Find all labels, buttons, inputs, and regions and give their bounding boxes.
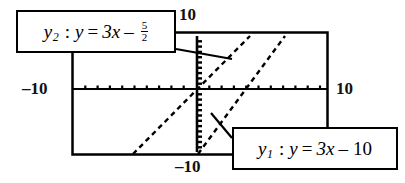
callout-box-y1: y1 : y = 3x – 10 [232,127,398,170]
figure-container: 10 –10 10 –10 y2 : y = 3x – 5 2 y1 : y =… [0,0,405,183]
equation-y1-lhs: y [289,139,297,158]
equation-y2-subscript: 2 [53,31,59,43]
axis-label-right: 10 [336,80,353,97]
equation-y1-colon: : [279,139,284,158]
equation-y2-equals: = [88,22,99,41]
y-axis-ticks [197,41,202,147]
equation-y2-colon: : [65,22,70,41]
axis-label-bottom: –10 [175,158,201,175]
fraction-denominator: 2 [141,31,149,43]
equation-y2-operator: – [124,22,134,41]
equation-y1-slope-term: 3x [316,139,334,158]
axis-label-top: 10 [179,6,196,23]
equation-y1-equals: = [302,139,313,158]
equation-y2: y2 : y = 3x – 5 2 [44,20,148,43]
equation-y2-lhs: y [75,22,83,41]
equation-y1: y1 : y = 3x – 10 [258,139,372,158]
callout-box-y2: y2 : y = 3x – 5 2 [16,10,176,53]
equation-y2-slope-term: 3x [102,22,120,41]
equation-y1-constant: 10 [353,139,372,158]
equation-y1-subscript: 1 [267,148,273,160]
equation-y1-name: y [258,139,266,158]
equation-y2-fraction: 5 2 [141,20,149,43]
equation-y2-name: y [44,22,52,41]
axis-label-left: –10 [22,80,48,97]
fraction-numerator: 5 [141,20,149,31]
equation-y1-operator: – [338,139,348,158]
